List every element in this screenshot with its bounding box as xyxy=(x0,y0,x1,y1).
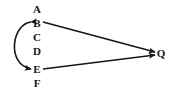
diagram-canvas: A B C D E F Q xyxy=(0,0,169,95)
edge-b-to-q xyxy=(43,22,155,52)
node-label-q: Q xyxy=(154,48,168,59)
node-label-f: F xyxy=(30,78,44,89)
node-label-d: D xyxy=(30,46,44,57)
diagram-edges-svg xyxy=(0,0,169,95)
edge-b-e-curve xyxy=(14,22,31,69)
node-label-e: E xyxy=(30,64,44,75)
node-label-b: B xyxy=(30,18,44,29)
node-label-a: A xyxy=(30,4,44,15)
node-label-c: C xyxy=(30,32,44,43)
edge-e-to-q xyxy=(43,55,155,69)
